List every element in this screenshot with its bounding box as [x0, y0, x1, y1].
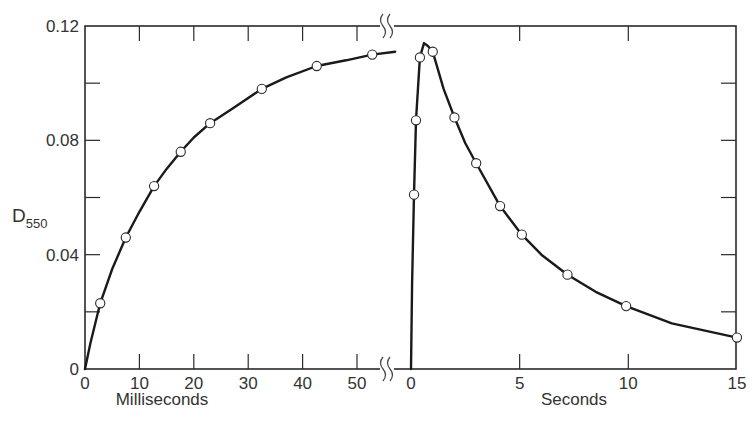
- data-point: [428, 47, 437, 56]
- data-point: [517, 230, 526, 239]
- data-point: [149, 181, 158, 190]
- data-point: [472, 159, 481, 168]
- data-point: [411, 116, 420, 125]
- data-point: [450, 113, 459, 122]
- data-point: [415, 53, 424, 62]
- axis-break-marks: [380, 14, 394, 381]
- data-point: [368, 50, 377, 59]
- data-point: [495, 201, 504, 210]
- data-point: [121, 233, 130, 242]
- seconds-segment-curve: [411, 43, 737, 369]
- x-tick-label: 40: [293, 374, 312, 393]
- data-point: [622, 302, 631, 311]
- kinetics-chart: D550 Milliseconds Seconds 00.040.080.120…: [0, 0, 752, 427]
- data-point: [206, 119, 215, 128]
- y-tick-label: 0.04: [46, 246, 79, 265]
- x-tick-label: 15: [727, 374, 746, 393]
- x-tick-label: 20: [184, 374, 203, 393]
- y-tick-label: 0.08: [46, 131, 79, 150]
- y-tick-label: 0: [70, 360, 79, 379]
- x-tick-label: 0: [80, 374, 89, 393]
- data-point: [409, 190, 418, 199]
- x-tick-label: 0: [406, 374, 415, 393]
- data-point: [257, 84, 266, 93]
- axis-labels: D550 Milliseconds Seconds 00.040.080.120…: [12, 17, 746, 409]
- data-point: [176, 147, 185, 156]
- x-tick-label: 10: [619, 374, 638, 393]
- data-point: [96, 299, 105, 308]
- data-point: [312, 61, 321, 70]
- x-tick-label: 5: [515, 374, 524, 393]
- data-point: [732, 333, 741, 342]
- x-axis-label-seconds: Seconds: [541, 390, 607, 409]
- y-tick-label: 0.12: [46, 17, 79, 36]
- data-point: [563, 270, 572, 279]
- x-tick-label: 30: [239, 374, 258, 393]
- x-tick-label: 50: [348, 374, 367, 393]
- y-axis-label: D550: [12, 205, 47, 231]
- milliseconds-segment-curve: [85, 52, 395, 369]
- x-tick-label: 10: [130, 374, 149, 393]
